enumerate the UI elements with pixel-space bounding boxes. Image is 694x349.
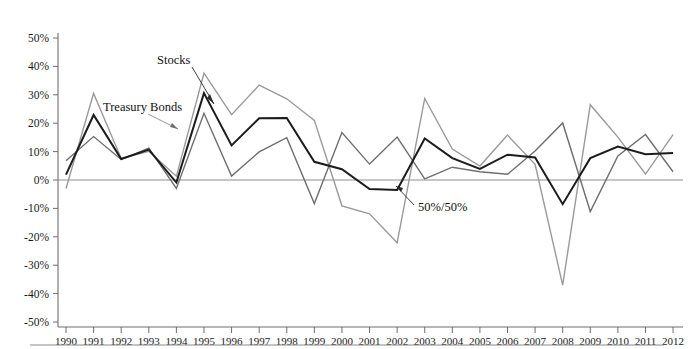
y-tick-label: -40% xyxy=(24,288,49,300)
y-tick-label: -20% xyxy=(24,231,49,243)
y-tick-label: 20% xyxy=(28,117,50,129)
y-tick-label: 10% xyxy=(28,146,50,158)
y-axis-tick-labels: 50%40%30%20%10%0%-10%-20%-30%-40%-50% xyxy=(24,32,49,328)
y-axis-ticks xyxy=(53,38,58,322)
annotation-fifty-fifty: 50%/50% xyxy=(418,200,467,214)
x-axis-ticks xyxy=(66,327,673,333)
y-tick-label: 0% xyxy=(34,174,50,186)
x-tick-label: 2012 xyxy=(662,335,684,347)
y-tick-label: 40% xyxy=(28,60,50,72)
y-tick-label: -10% xyxy=(24,202,49,214)
treasury-bonds-leader-arrow xyxy=(170,123,178,129)
y-tick-label: 30% xyxy=(28,89,50,101)
y-tick-label: -50% xyxy=(24,316,49,328)
annotation-stocks: Stocks xyxy=(157,53,190,67)
y-tick-label: 50% xyxy=(28,32,50,44)
annotation-treasury-bonds: Treasury Bonds xyxy=(103,100,182,114)
line-chart: 50%40%30%20%10%0%-10%-20%-30%-40%-50% 19… xyxy=(0,0,694,349)
chart-page: 50%40%30%20%10%0%-10%-20%-30%-40%-50% 19… xyxy=(0,0,694,349)
y-tick-label: -30% xyxy=(24,259,49,271)
